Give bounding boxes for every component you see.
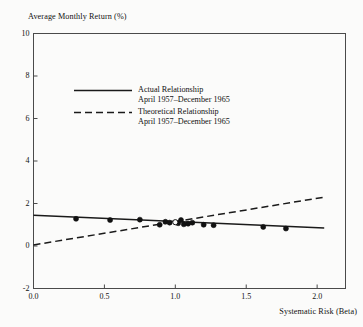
data-point-marker: [283, 226, 288, 231]
legend-actual-line2: April 1957–December 1965: [138, 95, 230, 105]
data-point-marker: [74, 216, 79, 221]
axis-ticks: [34, 34, 318, 289]
data-point-marker: [108, 218, 113, 223]
plot-canvas: [0, 0, 363, 327]
market-portfolio-marker: [173, 220, 178, 225]
legend-swatches: [74, 91, 132, 113]
chart-figure: Average Monthly Return (%) Systematic Ri…: [0, 0, 363, 327]
data-point-marker: [261, 224, 266, 229]
data-point-marker: [157, 222, 162, 227]
legend-actual-line1: Actual Relationship: [138, 85, 230, 95]
data-point-marker: [167, 220, 172, 225]
data-point-marker: [211, 223, 216, 228]
legend-entry-actual: Actual Relationship April 1957–December …: [138, 85, 230, 105]
legend-theoretical-line2: April 1957–December 1965: [138, 117, 230, 127]
data-point-marker: [201, 222, 206, 227]
legend-entry-theoretical: Theoretical Relationship April 1957–Dece…: [138, 107, 230, 127]
data-point-marker: [137, 217, 142, 222]
legend-theoretical-line1: Theoretical Relationship: [138, 107, 230, 117]
plot-frame: [34, 34, 346, 289]
data-point-marker: [190, 220, 195, 225]
